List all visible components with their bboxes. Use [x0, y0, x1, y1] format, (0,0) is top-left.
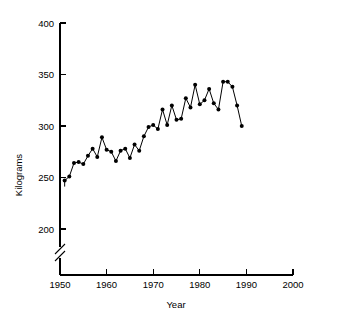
y-tick-label-250: 250: [38, 172, 54, 183]
data-point: [109, 150, 113, 154]
y-tick-label-300: 300: [38, 121, 54, 132]
data-point: [198, 102, 202, 106]
data-point: [207, 87, 211, 91]
x-tick-label-1990: 1990: [236, 279, 257, 290]
data-point: [123, 147, 127, 151]
line-chart-svg: 400 350 300 250 200 Kilograms 1950 1960 …: [0, 0, 340, 320]
y-axis-title: Kilograms: [13, 154, 24, 196]
data-point: [188, 105, 192, 109]
series-markers-group: [63, 80, 244, 183]
data-point: [95, 155, 99, 159]
data-point: [142, 134, 146, 138]
data-point: [137, 149, 141, 153]
data-point: [221, 80, 225, 84]
y-tick-label-200: 200: [38, 224, 54, 235]
data-point: [240, 124, 244, 128]
data-point: [86, 154, 90, 158]
data-point: [216, 108, 220, 112]
data-point: [114, 159, 118, 163]
data-point: [184, 96, 188, 100]
x-tick-label-1960: 1960: [96, 279, 117, 290]
x-tick-label-1950: 1950: [49, 279, 70, 290]
data-point: [119, 149, 123, 153]
data-point: [202, 98, 206, 102]
data-point: [100, 135, 104, 139]
chart-container: 400 350 300 250 200 Kilograms 1950 1960 …: [0, 0, 340, 320]
data-point: [72, 161, 76, 165]
x-axis: 1950 1960 1970 1980 1990 2000 Year: [49, 269, 303, 310]
data-point: [156, 127, 160, 131]
data-point: [63, 179, 67, 183]
y-tick-label-350: 350: [38, 69, 54, 80]
data-point: [77, 160, 81, 164]
data-point: [91, 147, 95, 151]
data-point: [179, 117, 183, 121]
x-tick-label-2000: 2000: [282, 279, 303, 290]
data-point: [128, 156, 132, 160]
data-point: [81, 162, 85, 166]
data-series-group: [63, 80, 244, 187]
data-point: [226, 80, 230, 84]
data-point: [230, 85, 234, 89]
x-axis-title: Year: [166, 299, 185, 310]
x-tick-label-1980: 1980: [189, 279, 210, 290]
data-point: [235, 103, 239, 107]
data-point: [67, 174, 71, 178]
data-point: [165, 123, 169, 127]
data-point: [133, 143, 137, 147]
data-point: [147, 125, 151, 129]
y-axis: 400 350 300 250 200 Kilograms: [13, 18, 66, 276]
data-point: [105, 148, 109, 152]
x-tick-label-1970: 1970: [143, 279, 164, 290]
data-point: [212, 101, 216, 105]
data-point: [151, 123, 155, 127]
y-tick-label-400: 400: [38, 18, 54, 29]
series-line-kilograms: [65, 82, 242, 181]
data-point: [193, 83, 197, 87]
data-point: [161, 108, 165, 112]
data-point: [175, 118, 179, 122]
data-point: [170, 103, 174, 107]
